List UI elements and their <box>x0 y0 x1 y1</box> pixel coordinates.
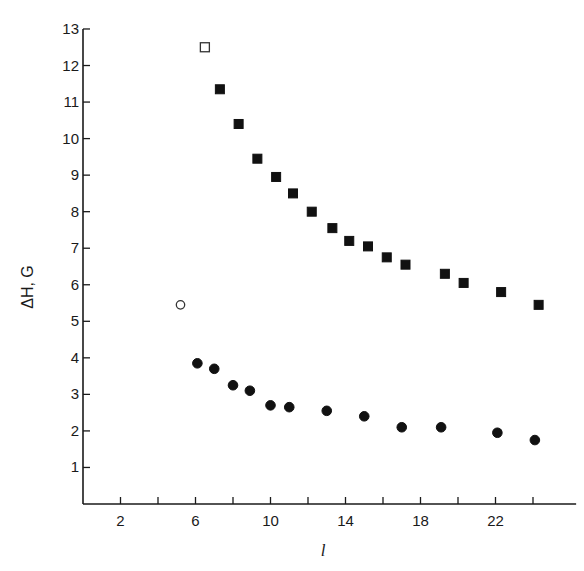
filled-square-point <box>272 172 281 181</box>
series-squares-filled <box>215 85 543 310</box>
filled-circle-point <box>209 364 219 374</box>
open-square-point <box>200 43 209 52</box>
y-tick-label: 2 <box>71 422 79 439</box>
filled-circle-point <box>397 422 407 432</box>
filled-circle-point <box>436 422 446 432</box>
filled-circle-point <box>493 428 503 438</box>
filled-square-point <box>459 278 468 287</box>
series-circles-filled <box>193 359 540 445</box>
filled-circle-point <box>266 401 276 411</box>
y-tick-label: 13 <box>62 20 79 37</box>
x-axis: 2610141822 <box>83 497 576 529</box>
series-square-open <box>200 43 209 52</box>
filled-circle-point <box>228 380 238 390</box>
filled-square-point <box>328 224 337 233</box>
filled-square-point <box>440 269 449 278</box>
y-tick-label: 10 <box>62 130 79 147</box>
open-circle-point <box>176 301 184 309</box>
x-tick-label: 22 <box>487 512 504 529</box>
x-tick-label: 10 <box>262 512 279 529</box>
y-tick-label: 3 <box>71 385 79 402</box>
filled-circle-point <box>284 402 294 412</box>
filled-square-point <box>253 154 262 163</box>
filled-square-point <box>382 253 391 262</box>
y-tick-label: 9 <box>71 166 79 183</box>
filled-circle-point <box>193 359 203 369</box>
filled-square-point <box>289 189 298 198</box>
filled-circle-point <box>245 386 255 396</box>
filled-circle-point <box>322 406 332 416</box>
filled-square-point <box>215 85 224 94</box>
filled-square-point <box>364 242 373 251</box>
series-circle-open <box>176 301 184 309</box>
filled-square-point <box>497 288 506 297</box>
y-tick-label: 8 <box>71 203 79 220</box>
y-tick-label: 1 <box>71 458 79 475</box>
y-ticks: 12345678910111213 <box>62 20 90 475</box>
y-tick-label: 7 <box>71 239 79 256</box>
y-tick-label: 12 <box>62 57 79 74</box>
y-tick-label: 4 <box>71 349 79 366</box>
filled-square-point <box>345 236 354 245</box>
y-axis-title: ΔH, G <box>19 265 36 309</box>
x-ticks: 2610141822 <box>116 497 533 529</box>
filled-square-point <box>401 260 410 269</box>
x-tick-label: 6 <box>191 512 199 529</box>
filled-circle-point <box>359 412 369 422</box>
filled-circle-point <box>530 435 540 445</box>
chart: 12345678910111213 2610141822 ΔH, G l <box>0 0 584 571</box>
x-tick-label: 18 <box>412 512 429 529</box>
y-tick-label: 11 <box>63 93 79 110</box>
filled-square-point <box>534 300 543 309</box>
x-tick-label: 2 <box>116 512 124 529</box>
x-axis-title: l <box>321 541 326 560</box>
filled-square-point <box>234 119 243 128</box>
y-axis: 12345678910111213 <box>62 20 90 504</box>
data-marks <box>176 43 543 445</box>
filled-square-point <box>307 207 316 216</box>
y-tick-label: 5 <box>71 312 79 329</box>
y-tick-label: 6 <box>71 276 79 293</box>
x-tick-label: 14 <box>337 512 354 529</box>
